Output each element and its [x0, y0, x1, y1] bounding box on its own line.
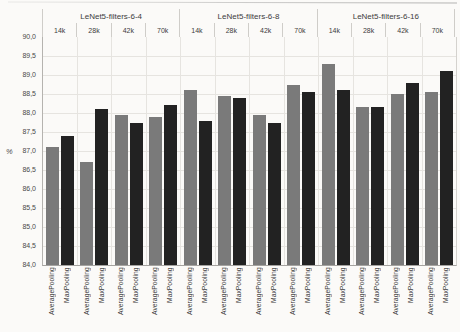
bar-averagepooling — [184, 90, 197, 265]
x-axis-label: AveragePooling — [286, 267, 299, 330]
x-axis-label: MaxPooling — [198, 267, 211, 330]
bar-maxpooling — [61, 136, 74, 265]
x-axis-label: AveragePooling — [355, 267, 368, 330]
bar-averagepooling — [218, 96, 231, 265]
x-label-column: AveragePoolingMaxPooling — [42, 267, 76, 330]
y-tick-label: 89,0 — [8, 71, 36, 79]
size-label: 42k — [385, 23, 419, 37]
x-axis-label: AveragePooling — [217, 267, 230, 330]
size-label: 28k — [214, 23, 248, 37]
x-axis-labels: AveragePoolingMaxPoolingAveragePoolingMa… — [42, 267, 455, 330]
bar-column — [319, 37, 354, 265]
y-tick-label: 85,5 — [8, 204, 36, 212]
x-label-column: AveragePoolingMaxPooling — [283, 267, 317, 330]
group-header-row: LeNet5-filters-6-4LeNet5-filters-6-8LeNe… — [42, 9, 455, 23]
x-axis-label: AveragePooling — [252, 267, 265, 330]
bar-column — [354, 37, 389, 265]
bar-columns — [43, 37, 456, 265]
x-axis-label: MaxPooling — [404, 267, 417, 330]
y-tick-label: 86,5 — [8, 166, 36, 174]
size-label: 14k — [317, 23, 351, 37]
x-axis-label: MaxPooling — [336, 267, 349, 330]
x-label-column: AveragePoolingMaxPooling — [180, 267, 214, 330]
bar-column — [285, 37, 320, 265]
bar-column — [147, 37, 182, 265]
x-axis-label: MaxPooling — [163, 267, 176, 330]
bar-column — [216, 37, 251, 265]
bar-column — [388, 37, 423, 265]
chart-area: LeNet5-filters-6-4LeNet5-filters-6-8LeNe… — [0, 0, 460, 332]
x-axis-label: AveragePooling — [389, 267, 402, 330]
bar-averagepooling — [149, 117, 162, 265]
y-tick-label: 84,0 — [8, 261, 36, 269]
bar-averagepooling — [391, 94, 404, 265]
bar-maxpooling — [371, 107, 384, 265]
group-label: LeNet5-filters-6-16 — [317, 9, 455, 23]
bar-maxpooling — [337, 90, 350, 265]
size-label: 28k — [76, 23, 110, 37]
bar-averagepooling — [115, 115, 128, 265]
bar-column — [43, 37, 78, 265]
x-label-column: AveragePoolingMaxPooling — [421, 267, 455, 330]
bar-maxpooling — [302, 92, 315, 265]
y-tick-label: 87,0 — [8, 147, 36, 155]
bar-averagepooling — [287, 85, 300, 266]
bar-averagepooling — [80, 162, 93, 265]
bar-maxpooling — [406, 83, 419, 265]
size-label: 14k — [42, 23, 76, 37]
size-label: 28k — [351, 23, 385, 37]
x-axis-label: MaxPooling — [95, 267, 108, 330]
bar-maxpooling — [233, 98, 246, 265]
y-tick-label: 86,0 — [8, 185, 36, 193]
y-tick-label: 90,0 — [8, 33, 36, 41]
size-label: 42k — [248, 23, 282, 37]
bar-maxpooling — [95, 109, 108, 265]
bar-averagepooling — [322, 64, 335, 265]
size-label: 14k — [179, 23, 213, 37]
x-label-column: AveragePoolingMaxPooling — [249, 267, 283, 330]
bar-maxpooling — [268, 123, 281, 266]
x-axis-label: AveragePooling — [424, 267, 437, 330]
x-label-column: AveragePoolingMaxPooling — [76, 267, 110, 330]
y-tick-label: 89,5 — [8, 52, 36, 60]
plot-area — [42, 37, 457, 266]
x-axis-label: AveragePooling — [114, 267, 127, 330]
y-tick-label: 85,0 — [8, 223, 36, 231]
x-axis-label: MaxPooling — [267, 267, 280, 330]
bar-column — [423, 37, 457, 265]
size-label: 42k — [111, 23, 145, 37]
x-label-column: AveragePoolingMaxPooling — [386, 267, 420, 330]
y-tick-label: 88,5 — [8, 90, 36, 98]
y-tick-label: 87,5 — [8, 128, 36, 136]
x-axis-label: MaxPooling — [129, 267, 142, 330]
x-axis-label: MaxPooling — [301, 267, 314, 330]
x-axis-label: MaxPooling — [439, 267, 452, 330]
group-label: LeNet5-filters-6-4 — [42, 9, 179, 23]
size-header-row: 14k28k42k70k14k28k42k70k14k28k42k70k — [42, 23, 455, 37]
x-axis-label: MaxPooling — [370, 267, 383, 330]
x-label-column: AveragePoolingMaxPooling — [111, 267, 145, 330]
bar-column — [78, 37, 113, 265]
x-axis-label: AveragePooling — [321, 267, 334, 330]
y-tick-label: 88,0 — [8, 109, 36, 117]
bar-maxpooling — [164, 105, 177, 265]
bar-maxpooling — [199, 121, 212, 265]
bar-averagepooling — [46, 147, 59, 265]
bar-averagepooling — [425, 92, 438, 265]
size-label: 70k — [420, 23, 455, 37]
x-label-column: AveragePoolingMaxPooling — [214, 267, 248, 330]
bar-averagepooling — [253, 115, 266, 265]
x-axis-label: AveragePooling — [183, 267, 196, 330]
y-tick-label: 84,5 — [8, 242, 36, 250]
x-label-column: AveragePoolingMaxPooling — [317, 267, 351, 330]
x-axis-label: AveragePooling — [148, 267, 161, 330]
group-label: LeNet5-filters-6-8 — [179, 9, 316, 23]
x-axis-label: AveragePooling — [80, 267, 93, 330]
top-border-line — [8, 2, 457, 4]
size-label: 70k — [145, 23, 179, 37]
x-axis-label: MaxPooling — [232, 267, 245, 330]
x-label-column: AveragePoolingMaxPooling — [352, 267, 386, 330]
x-label-column: AveragePoolingMaxPooling — [145, 267, 179, 330]
bar-maxpooling — [130, 123, 143, 266]
bar-column — [250, 37, 285, 265]
